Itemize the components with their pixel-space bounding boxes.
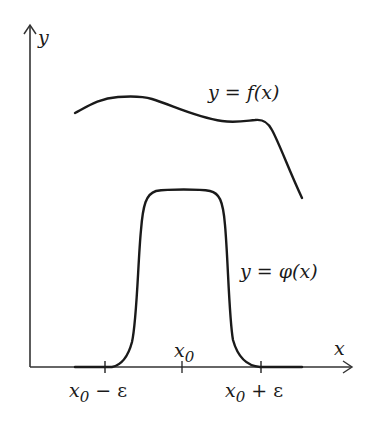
tick-label-x0-base: x <box>174 339 185 361</box>
tick-label-x0-plus-eps: x0 + ε <box>225 379 283 406</box>
tick-label-x0-minus-eps-eps: ε <box>117 379 127 401</box>
curve-phi-label: y = φ(x) <box>239 260 318 282</box>
tick-label-x0-plus-eps-sub: 0 <box>236 388 246 406</box>
curve-f-label: y = f(x) <box>207 81 279 103</box>
tick-label-x0-plus-eps-base: x <box>225 379 236 401</box>
y-axis-label: y <box>37 26 49 48</box>
curve-f-label-eq: = <box>219 81 247 103</box>
curve-f-label-fn: f(x) <box>245 81 280 103</box>
y-axis: y <box>24 25 49 367</box>
curve-phi-label-eq: = <box>251 260 279 282</box>
tick-label-x0-minus-eps-base: x <box>69 379 80 401</box>
tick-label-x0-plus-eps-eps: ε <box>273 379 283 401</box>
bump-function-diagram: y x y = f(x) y = φ(x) x0 x0 − ε x0 + ε <box>0 0 369 423</box>
curve-phi-label-fn: φ(x) <box>279 260 318 282</box>
tick-label-x0-minus-eps-op: − <box>89 379 117 401</box>
curve-phi-label-var: y <box>239 260 251 282</box>
tick-label-x0-sub: 0 <box>185 348 195 366</box>
x-axis-label: x <box>334 337 345 359</box>
curve-f <box>75 96 302 198</box>
tick-label-x0-minus-eps-sub: 0 <box>80 388 90 406</box>
tick-label-x0-minus-eps: x0 − ε <box>69 379 127 406</box>
curve-f-label-var: y <box>207 81 219 103</box>
tick-label-x0-plus-eps-op: + <box>245 379 273 401</box>
tick-label-x0: x0 <box>174 339 195 366</box>
